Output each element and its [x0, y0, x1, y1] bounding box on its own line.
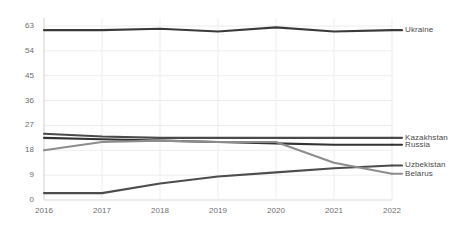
x-axis-tick-label: 2020	[256, 206, 296, 215]
y-axis-tick-label: 27	[8, 120, 34, 129]
x-axis-tick-label: 2016	[24, 206, 64, 215]
y-axis-tick-label: 36	[8, 96, 34, 105]
x-axis-tick-label: 2017	[82, 206, 122, 215]
y-axis-tick-label: 63	[8, 21, 34, 30]
y-axis-tick-label: 18	[8, 145, 34, 154]
x-axis-tick-label: 2021	[314, 206, 354, 215]
y-axis-tick-label: 54	[8, 46, 34, 55]
y-axis-tick-label: 0	[8, 195, 34, 204]
line-chart: 0918273645546320162017201820192020202120…	[0, 0, 464, 236]
series-label-russia: Russia	[405, 140, 430, 149]
x-axis-tick-label: 2019	[198, 206, 238, 215]
x-axis-tick-label: 2022	[372, 206, 412, 215]
series-label-belarus: Belarus	[405, 169, 433, 178]
series-label-ukraine: Ukraine	[405, 25, 433, 34]
x-axis-tick-label: 2018	[140, 206, 180, 215]
y-axis-tick-label: 9	[8, 170, 34, 179]
y-axis-tick-label: 45	[8, 71, 34, 80]
chart-plot-area	[0, 0, 464, 236]
